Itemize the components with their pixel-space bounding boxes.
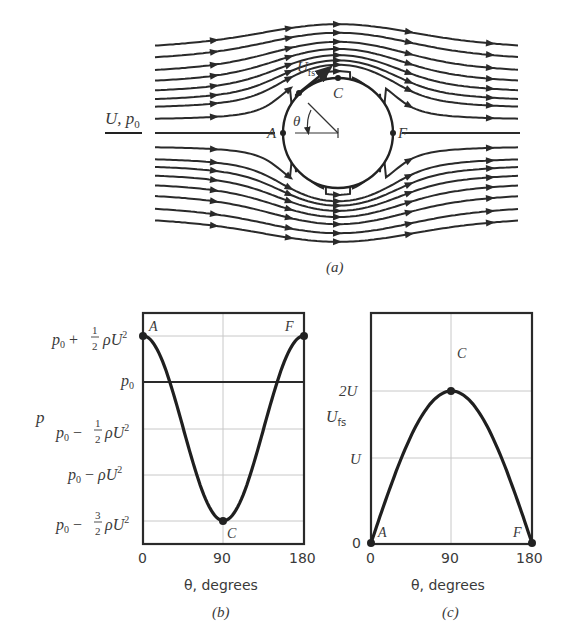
velocity-grid — [371, 313, 532, 544]
flow-arrow-icon — [486, 94, 495, 102]
flow-arrow-icon — [333, 29, 342, 36]
flow-arrow-icon — [486, 165, 495, 173]
point-a-label: A — [266, 125, 277, 141]
flow-arrow-icon — [486, 51, 496, 59]
flow-arrow-icon — [404, 59, 415, 68]
flow-arrow-icon — [404, 179, 415, 189]
svg-text:1: 1 — [95, 417, 101, 429]
velocity-point-a — [367, 539, 375, 547]
pressure-point-c — [219, 517, 227, 525]
svg-text:ρU2: ρU2 — [102, 329, 127, 349]
svg-text:2: 2 — [92, 340, 98, 352]
flow-arrow-icon — [404, 85, 415, 95]
flow-arrow-icon — [210, 167, 220, 175]
angle-label: θ — [293, 113, 301, 129]
flow-arrow-icon — [486, 114, 495, 121]
svg-text:1: 1 — [92, 324, 98, 336]
flow-arrow-icon — [333, 45, 342, 52]
flow-arrow-icon — [486, 174, 495, 182]
flow-arrow-icon — [210, 36, 220, 44]
pressure-xlabel: θ, degrees — [184, 577, 258, 593]
flow-arrow-icon — [486, 64, 496, 72]
flow-arrow-icon — [333, 238, 342, 245]
velocity-label-a: A — [377, 525, 387, 540]
point-c-marker — [335, 75, 341, 81]
velocity-ytick-2u: 2U — [339, 383, 359, 399]
svg-text:p0 −: p0 − — [55, 516, 82, 535]
flow-arrow-icon — [404, 155, 415, 166]
flow-arrow-icon — [404, 170, 415, 180]
svg-text:p0: p0 — [120, 372, 134, 391]
svg-text:2: 2 — [95, 525, 101, 537]
pressure-ylabel: p — [35, 408, 45, 427]
flow-arrow-icon — [486, 144, 495, 151]
flow-arrow-icon — [486, 183, 496, 191]
flow-arrow-icon — [210, 145, 219, 153]
velocity-xtick-180: 180 — [516, 550, 543, 566]
svg-text:p0 +: p0 + — [51, 331, 78, 350]
point-f-marker — [390, 130, 396, 136]
pressure-point-a — [139, 332, 147, 340]
pressure-label-f: F — [284, 319, 294, 334]
svg-text:3: 3 — [95, 509, 101, 521]
flow-arrow-icon — [210, 113, 219, 121]
point-a-marker — [280, 130, 286, 136]
velocity-point-c — [447, 387, 455, 395]
flow-diagram: θ Ufs A C F U, p0 (a) — [105, 21, 520, 276]
pressure-xtick-0: 0 — [138, 550, 147, 566]
pressure-yticks: p0 + 12 ρU2 p0 p0 − 12 ρU2 p0 − ρU2 p0 −… — [51, 324, 134, 537]
pressure-xtick-180: 180 — [289, 550, 316, 566]
caption-b: (b) — [212, 604, 230, 621]
velocity-label-f: F — [512, 525, 522, 540]
flow-arrow-icon — [404, 197, 415, 206]
velocity-xtick-0: 0 — [366, 550, 375, 566]
flow-arrow-icon — [486, 102, 495, 109]
freestream-label: U, p0 — [105, 109, 140, 130]
point-f-label: F — [397, 125, 408, 141]
pressure-grid — [143, 313, 304, 544]
flow-arrow-icon — [210, 100, 220, 108]
velocity-point-f — [528, 539, 536, 547]
flow-arrow-icon — [404, 101, 415, 112]
svg-text:ρU2: ρU2 — [104, 422, 129, 442]
svg-text:2: 2 — [95, 433, 101, 445]
velocity-ylabel: Ufs — [326, 408, 346, 428]
velocity-chart: A C F 2U U 0 Ufs 0 90 180 θ, degrees (c) — [326, 313, 543, 621]
flow-arrow-icon — [333, 221, 342, 228]
pressure-label-a: A — [148, 319, 158, 334]
flow-arrow-icon — [486, 194, 496, 202]
pressure-point-f — [300, 332, 308, 340]
caption-c: (c) — [442, 604, 459, 621]
flow-arrow-icon — [404, 77, 415, 87]
flow-arrow-icon — [486, 157, 495, 164]
pressure-xtick-90: 90 — [213, 550, 231, 566]
flow-arrow-icon — [210, 222, 220, 230]
point-c-label: C — [333, 85, 344, 101]
velocity-ytick-u: U — [350, 451, 362, 467]
flow-arrow-icon — [333, 213, 342, 220]
flow-arrow-icon — [333, 21, 342, 28]
flow-arrow-icon — [486, 207, 496, 215]
flow-arrow-icon — [486, 75, 496, 83]
velocity-label-c: C — [457, 346, 467, 361]
figure-canvas: θ Ufs A C F U, p0 (a) — [0, 0, 564, 638]
flow-arrow-icon — [210, 91, 220, 99]
flow-arrow-icon — [404, 68, 415, 78]
flow-arrow-icon — [333, 191, 342, 198]
flow-arrow-icon — [210, 159, 220, 167]
pressure-chart: A C F p0 + 12 ρU2 p0 p0 − 12 ρU2 p0 − ρU… — [35, 313, 316, 621]
surface-velocity-label: Ufs — [297, 59, 315, 78]
svg-text:ρU2: ρU2 — [104, 514, 129, 534]
flow-arrow-icon — [333, 207, 342, 214]
flow-arrow-icon — [486, 39, 496, 47]
svg-text:p0 − ρU2: p0 − ρU2 — [67, 464, 122, 485]
velocity-xlabel: θ, degrees — [411, 577, 485, 593]
caption-a: (a) — [326, 259, 344, 276]
flow-arrow-icon — [486, 219, 496, 227]
velocity-xtick-90: 90 — [441, 550, 459, 566]
flow-arrow-icon — [333, 230, 342, 237]
flow-arrow-icon — [404, 188, 415, 198]
pressure-label-c: C — [227, 526, 237, 541]
flow-arrow-icon — [333, 61, 342, 68]
flow-arrow-icon — [333, 68, 342, 75]
